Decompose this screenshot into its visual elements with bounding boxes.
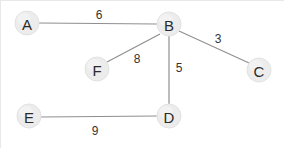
node-b[interactable]: B	[157, 12, 181, 36]
edge-weight-a-b: 6	[96, 8, 103, 22]
frame-border	[0, 0, 284, 148]
graph-svg: 6 3 8 5 9 A B C D E	[0, 0, 284, 148]
node-e-label: E	[24, 109, 34, 126]
edge-weight-group: 6 3 8 5 9	[92, 8, 222, 138]
edge-weight-b-d: 5	[176, 61, 183, 75]
graph-diagram-canvas: 6 3 8 5 9 A B C D E	[0, 0, 284, 148]
edge-weight-b-f: 8	[134, 52, 141, 66]
node-d[interactable]: D	[157, 104, 181, 128]
node-d-label: D	[164, 109, 175, 126]
node-b-label: B	[164, 17, 174, 34]
node-a-label: A	[22, 16, 32, 33]
node-f[interactable]: F	[85, 57, 109, 81]
node-e[interactable]: E	[17, 104, 41, 128]
node-c[interactable]: C	[247, 58, 271, 82]
edge-a-b[interactable]	[39, 23, 157, 24]
node-a[interactable]: A	[15, 11, 39, 35]
node-c-label: C	[254, 63, 265, 80]
edge-e-d[interactable]	[41, 116, 157, 117]
edge-weight-b-c: 3	[215, 32, 222, 46]
edge-weight-e-d: 9	[92, 124, 99, 138]
node-f-label: F	[92, 62, 101, 79]
